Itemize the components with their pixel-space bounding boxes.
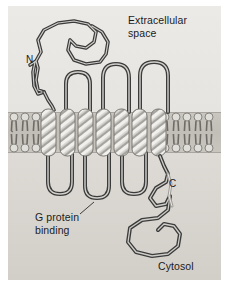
lipid-right-group	[161, 113, 213, 152]
g-protein-leader-line	[80, 202, 94, 214]
tm-helix-5	[114, 109, 129, 156]
lipid-left-group	[10, 113, 40, 152]
tm-helix-1	[41, 109, 56, 156]
cytosolic-loops	[48, 153, 146, 198]
c-terminus-label: C	[169, 178, 176, 191]
n-terminus-label: N	[26, 54, 33, 67]
protein-membrane-artwork	[8, 6, 221, 280]
tm-helix-6	[132, 109, 147, 156]
g-protein-binding-label: G protein binding	[35, 211, 79, 236]
cytosol-label: Cytosol	[158, 260, 194, 273]
figure-canvas: Extracellular space Cytosol G protein bi…	[8, 6, 221, 280]
gpcr-figure: Extracellular space Cytosol G protein bi…	[0, 0, 229, 291]
tm-helix-3	[78, 109, 93, 156]
c-terminal-ribbon	[128, 156, 180, 256]
n-terminal-ribbon	[30, 21, 108, 110]
extracellular-loops	[66, 62, 168, 112]
tm-helix-4	[96, 109, 111, 156]
tm-helix-2	[60, 109, 75, 156]
extracellular-space-label: Extracellular space	[128, 14, 187, 39]
tm-helix-7	[151, 109, 166, 156]
transmembrane-helices	[41, 109, 166, 156]
